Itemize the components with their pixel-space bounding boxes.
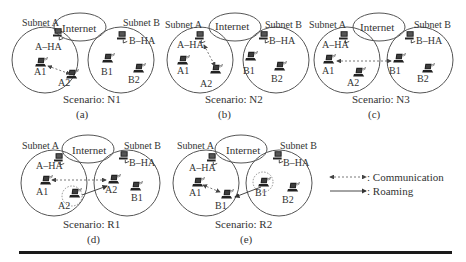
- laptop-b1-roamed-icon: [221, 189, 234, 198]
- subnet-a-label: Subnet A: [309, 19, 347, 30]
- panel-a: Subnet A Subnet B Internet A–HA B–HA A1 …: [12, 13, 160, 121]
- node-a2-label: A2: [347, 77, 359, 88]
- panel-d: Subnet A Subnet B Internet A–HA B–HA A1 …: [21, 135, 161, 246]
- ha-b-icon: [273, 151, 283, 163]
- legend: : Communication : Roaming: [330, 171, 444, 197]
- laptop-a1-icon: [177, 55, 190, 64]
- node-a2-roamed-label: A2: [105, 184, 117, 195]
- communication-arrow: [204, 45, 215, 66]
- scenario-label: Scenario: R2: [215, 218, 272, 230]
- ha-b-label: B–HA: [283, 157, 310, 168]
- panel-caption: (c): [368, 108, 381, 121]
- laptop-b2-icon: [287, 182, 300, 191]
- laptop-b1-icon: [130, 181, 143, 190]
- ha-a-label: A–HA: [36, 160, 63, 171]
- communication-arrow: [203, 185, 220, 192]
- legend-roaming-label: : Roaming: [367, 185, 414, 197]
- ha-a-label: A–HA: [322, 39, 349, 50]
- ha-b-icon: [117, 31, 127, 43]
- ha-a-label: A–HA: [35, 41, 62, 52]
- panel-caption: (e): [240, 233, 253, 246]
- node-a2-label: A2: [58, 77, 70, 88]
- node-b1-label: B1: [255, 187, 267, 198]
- scenario-label: Scenario: N3: [352, 93, 410, 105]
- laptop-b1-home-icon: [258, 177, 271, 186]
- ha-a-label: A–HA: [177, 39, 204, 50]
- node-a1-label: A1: [322, 65, 334, 76]
- ha-b-label: B–HA: [416, 35, 443, 46]
- ha-b-icon: [405, 31, 415, 43]
- node-b1-label: B1: [131, 192, 143, 203]
- panel-caption: (d): [87, 233, 100, 246]
- laptop-b2-icon: [422, 63, 435, 72]
- panel-b: Subnet A Subnet B Internet A–HA B–HA A1 …: [165, 13, 309, 121]
- ha-b-label: B–HA: [129, 35, 156, 46]
- subnet-b-label: Subnet B: [280, 140, 317, 151]
- node-b2-label: B2: [417, 73, 429, 84]
- subnet-b-label: Subnet B: [124, 140, 161, 151]
- subnet-a-circle: [173, 150, 239, 216]
- laptop-a1-icon: [40, 175, 53, 184]
- subnet-a-label: Subnet A: [22, 17, 60, 28]
- bottom-rule: [19, 251, 452, 254]
- panel-c: Subnet A Subnet B Internet A–HA B–HA A1 …: [309, 13, 453, 121]
- laptop-a2-icon: [353, 67, 366, 76]
- ha-b-label: B–HA: [269, 35, 296, 46]
- subnet-a-label: Subnet A: [22, 140, 60, 151]
- ha-b-icon: [119, 151, 129, 163]
- subnet-b-label: Subnet B: [414, 19, 451, 30]
- laptop-a2-home-icon: [69, 188, 82, 197]
- panel-caption: (b): [218, 108, 231, 121]
- laptop-a1-icon: [192, 177, 205, 186]
- node-b1-roamed-label: B1: [215, 200, 227, 211]
- node-a1-label: A1: [189, 187, 201, 198]
- internet-label: Internet: [226, 144, 260, 156]
- legend-communication-label: : Communication: [367, 171, 444, 183]
- scenario-label: Scenario: N1: [63, 93, 121, 105]
- node-b1-label: B1: [389, 65, 401, 76]
- node-a1-label: A1: [34, 66, 46, 77]
- node-a2-label: A2: [58, 200, 70, 211]
- panel-e: Subnet A Subnet B Internet A–HA B–HA A1 …: [173, 135, 317, 246]
- internet-label: Internet: [215, 20, 249, 32]
- laptop-b1-icon: [393, 53, 406, 62]
- laptop-b1-icon: [245, 51, 258, 60]
- scenario-label: Scenario: N2: [205, 93, 263, 105]
- laptop-b2-icon: [274, 61, 287, 70]
- internet-label: Internet: [72, 144, 106, 156]
- laptop-b2-icon: [133, 63, 146, 72]
- communication-arrow: [48, 66, 70, 74]
- ha-b-icon: [259, 31, 269, 43]
- internet-label: Internet: [62, 22, 96, 34]
- node-a1-label: A1: [177, 65, 189, 76]
- laptop-a2-roamed-icon: [108, 174, 121, 183]
- internet-label: Internet: [360, 21, 394, 33]
- ha-b-label: B–HA: [129, 157, 156, 168]
- figure-canvas: Subnet A Subnet B Internet A–HA B–HA A1 …: [0, 0, 466, 262]
- subnet-a-label: Subnet A: [177, 140, 215, 151]
- panel-caption: (a): [76, 108, 89, 121]
- subnet-b-label: Subnet B: [265, 19, 302, 30]
- node-a2-label: A2: [200, 78, 212, 89]
- subnet-a-label: Subnet A: [165, 19, 203, 30]
- laptop-a1-icon: [323, 54, 336, 63]
- laptop-b1-icon: [102, 53, 115, 62]
- node-b2-label: B2: [271, 73, 283, 84]
- node-a1-label: A1: [36, 186, 48, 197]
- laptop-a2-icon: [210, 64, 223, 73]
- node-b1-label: B1: [243, 65, 255, 76]
- node-b1-label: B1: [101, 66, 113, 77]
- ha-a-label: A–HA: [189, 162, 216, 173]
- subnet-b-label: Subnet B: [123, 17, 160, 28]
- node-b2-label: B2: [128, 74, 140, 85]
- scenario-label: Scenario: R1: [63, 218, 120, 230]
- node-b2-label: B2: [282, 194, 294, 205]
